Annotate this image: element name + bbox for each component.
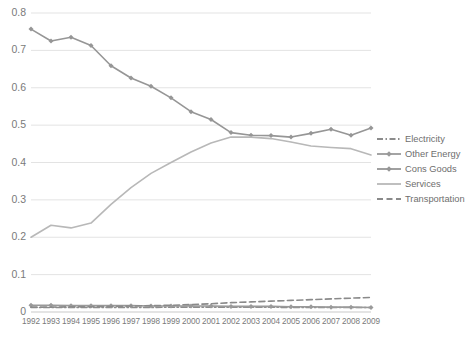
legend-marker-icon [376, 147, 402, 161]
y-tick-label: 0 [0, 305, 26, 317]
legend-item-transportation[interactable]: Transportation [376, 192, 467, 207]
legend-marker-icon [376, 162, 402, 176]
y-tick-label: 0.5 [0, 118, 26, 130]
y-tick-label: 0.6 [0, 81, 26, 93]
y-tick-label: 0.7 [0, 43, 26, 55]
x-tick-label: 1997 [122, 317, 140, 326]
data-point [249, 304, 254, 309]
line-chart: 00.10.20.30.40.50.60.70.8 19921993199419… [0, 0, 467, 338]
legend-label: Electricity [402, 134, 445, 144]
x-tick-label: 2001 [202, 317, 220, 326]
legend-label: Transportation [402, 194, 465, 204]
x-tick-label: 2002 [222, 317, 240, 326]
legend-label: Cons Goods [402, 164, 457, 174]
x-tick-label: 1993 [42, 317, 60, 326]
y-tick-label: 0.2 [0, 230, 26, 242]
data-point [309, 131, 314, 136]
y-tick-label: 0.8 [0, 6, 26, 18]
legend-marker-icon [376, 177, 402, 191]
x-tick-label: 2007 [322, 317, 340, 326]
series-cons-goods [29, 27, 374, 140]
legend-item-other-energy[interactable]: Other Energy [376, 146, 467, 161]
x-tick-label: 1995 [82, 317, 100, 326]
data-point [329, 127, 334, 132]
chart-legend: ElectricityOther EnergyCons GoodsService… [376, 131, 467, 207]
data-point [229, 304, 234, 309]
legend-label: Services [402, 179, 441, 189]
data-point [369, 305, 374, 310]
x-tick-label: 2006 [302, 317, 320, 326]
x-tick-label: 1992 [22, 317, 40, 326]
x-tick-label: 2005 [282, 317, 300, 326]
legend-item-services[interactable]: Services [376, 177, 467, 192]
data-point [289, 135, 294, 140]
series-line [31, 29, 371, 137]
x-tick-label: 2004 [262, 317, 280, 326]
legend-item-electricity[interactable]: Electricity [376, 131, 467, 146]
y-tick-label: 0.4 [0, 156, 26, 168]
y-tick-label: 0.3 [0, 193, 26, 205]
x-tick-label: 1994 [62, 317, 80, 326]
legend-marker-icon [376, 132, 402, 146]
data-point [289, 304, 294, 309]
legend-marker-icon [376, 192, 402, 206]
series-line [31, 137, 371, 237]
series-services [31, 137, 371, 237]
legend-item-cons-goods[interactable]: Cons Goods [376, 161, 467, 176]
x-tick-label: 2003 [242, 317, 260, 326]
data-point [349, 305, 354, 310]
data-point [269, 133, 274, 138]
data-point [69, 35, 74, 40]
data-point [309, 304, 314, 309]
x-tick-label: 2009 [362, 317, 380, 326]
y-tick-label: 0.1 [0, 268, 26, 280]
data-point [349, 133, 354, 138]
x-tick-label: 2008 [342, 317, 360, 326]
legend-label: Other Energy [402, 149, 460, 159]
x-tick-label: 1996 [102, 317, 120, 326]
data-point [329, 305, 334, 310]
x-tick-label: 2000 [182, 317, 200, 326]
x-tick-label: 1998 [142, 317, 160, 326]
gridlines [31, 13, 371, 312]
data-point [369, 126, 374, 131]
x-tick-label: 1999 [162, 317, 180, 326]
data-point [269, 304, 274, 309]
